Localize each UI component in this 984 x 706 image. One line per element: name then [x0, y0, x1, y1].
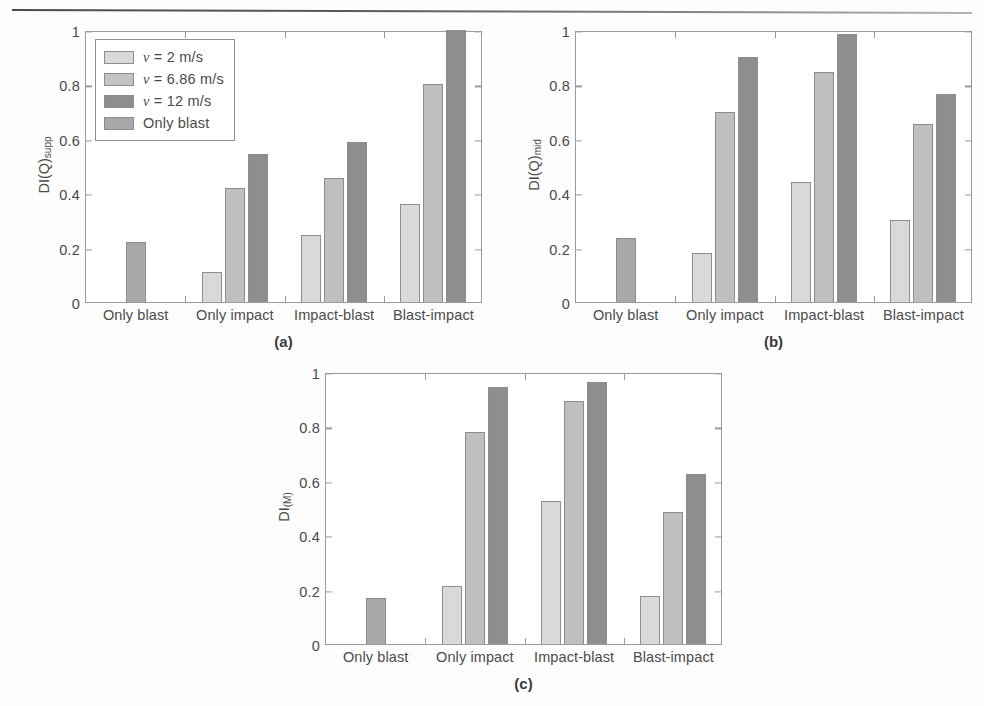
y-axis-tick-label: 0.6 [549, 133, 570, 149]
y-axis-tick-mark [86, 249, 92, 250]
y-axis-tick-label: 0.6 [299, 475, 320, 491]
x-axis-tick-label: Impact-blast [784, 307, 864, 323]
legend-item-variable: v [143, 93, 150, 109]
y-axis-tick-mark [326, 537, 332, 538]
plot-area: 00.20.40.60.81Only blastOnly impactImpac… [575, 31, 972, 303]
x-axis-tick-mark [675, 32, 676, 38]
legend-item-value: = 12 m/s [150, 93, 212, 109]
legend-swatch-v2 [104, 51, 134, 64]
x-axis-tick-label: Blast-impact [633, 649, 714, 665]
y-axis-tick-label: 1 [72, 24, 80, 40]
y-axis-tick-mark [475, 86, 481, 87]
bar [663, 512, 683, 644]
x-axis-tick-mark [675, 296, 676, 302]
y-axis-tick-mark [86, 86, 92, 87]
x-axis-tick-label: Only impact [686, 307, 764, 323]
bar [837, 34, 857, 302]
y-axis-title-main: DI [36, 179, 52, 194]
legend-item[interactable]: v = 6.86 m/s [104, 68, 224, 90]
bar [488, 387, 508, 644]
y-axis-title-variable: (Q) [36, 158, 52, 179]
legend-item-variable: v [143, 71, 150, 87]
legend-item-label: Only blast [143, 115, 209, 131]
x-axis-tick-mark [874, 296, 875, 302]
x-axis-tick-label: Only impact [436, 649, 514, 665]
legend-item-label: v = 2 m/s [143, 49, 203, 66]
y-axis-tick-mark [326, 591, 332, 592]
legend-swatch-v12 [104, 95, 134, 108]
x-axis-tick-mark [285, 296, 286, 302]
bar [301, 235, 321, 302]
y-axis-tick-mark [86, 195, 92, 196]
figure-page: DI(Q)supp00.20.40.60.81Only blastOnly im… [0, 0, 984, 706]
y-axis-tick-mark [326, 373, 332, 374]
x-axis-tick-mark [525, 374, 526, 380]
y-axis-tick-label: 0.2 [59, 242, 80, 258]
bar [564, 401, 584, 644]
x-axis-tick-mark [384, 296, 385, 302]
y-axis-tick-mark [475, 249, 481, 250]
x-axis-tick-mark [775, 296, 776, 302]
bar [446, 30, 466, 302]
legend: v = 2 m/sv = 6.86 m/sv = 12 m/sOnly blas… [95, 39, 235, 141]
legend-item[interactable]: v = 12 m/s [104, 90, 224, 112]
panel-caption: (b) [764, 333, 783, 350]
legend-item[interactable]: v = 2 m/s [104, 46, 224, 68]
panel-caption: (c) [514, 675, 532, 692]
y-axis-tick-mark [715, 591, 721, 592]
bar [814, 72, 834, 302]
x-axis-tick-mark [425, 374, 426, 380]
bar [541, 501, 561, 644]
y-axis-tick-mark [715, 428, 721, 429]
bar [640, 596, 660, 644]
y-axis-title-main: DI [526, 176, 542, 191]
y-axis-tick-mark [576, 31, 582, 32]
y-axis-title-main: DI [276, 507, 292, 522]
y-axis-tick-label: 0.8 [299, 420, 320, 436]
y-axis-tick-mark [475, 195, 481, 196]
x-axis-tick-mark [525, 638, 526, 644]
y-axis-title: DI(Q)mid [526, 29, 542, 301]
y-axis-tick-mark [86, 140, 92, 141]
y-axis-tick-label: 0.4 [59, 187, 80, 203]
legend-item-value: = 2 m/s [150, 49, 204, 65]
y-axis-tick-label: 0.4 [299, 529, 320, 545]
bar [587, 382, 607, 644]
y-axis-tick-label: 0 [72, 296, 80, 312]
y-axis-tick-label: 0.8 [549, 78, 570, 94]
x-axis-tick-mark [285, 32, 286, 38]
y-axis-tick-mark [965, 31, 971, 32]
bar [936, 94, 956, 302]
chart-panel-b: DI(Q)mid00.20.40.60.81Only blastOnly imp… [508, 24, 978, 354]
legend-item-value: Only blast [143, 115, 209, 131]
y-axis-tick-mark [715, 482, 721, 483]
y-axis-tick-label: 0.2 [549, 242, 570, 258]
x-axis-tick-label: Impact-blast [294, 307, 374, 323]
bar [366, 598, 386, 644]
bar [465, 432, 485, 644]
y-axis-tick-label: 0.4 [549, 187, 570, 203]
x-axis-tick-label: Only blast [343, 649, 408, 665]
y-axis-tick-label: 1 [312, 366, 320, 382]
x-axis-tick-mark [874, 32, 875, 38]
x-axis-tick-mark [185, 296, 186, 302]
x-axis-tick-label: Only blast [103, 307, 168, 323]
bar [890, 220, 910, 302]
y-axis-tick-mark [576, 195, 582, 196]
x-axis-tick-mark [775, 32, 776, 38]
y-axis-tick-label: 0.2 [299, 584, 320, 600]
bar [913, 124, 933, 302]
y-axis-title-subscript: supp [42, 136, 53, 158]
x-axis-tick-label: Only impact [196, 307, 274, 323]
plot-area: 00.20.40.60.81Only blastOnly impactImpac… [325, 373, 722, 645]
y-axis-title: DI(Q)supp [36, 29, 52, 301]
y-axis-title-subscript: (M) [282, 492, 293, 507]
x-axis-tick-mark [425, 638, 426, 644]
bar [791, 182, 811, 302]
y-axis-title-subscript: mid [532, 139, 543, 155]
y-axis-tick-label: 1 [562, 24, 570, 40]
legend-item[interactable]: Only blast [104, 112, 224, 134]
page-divider-rule [12, 9, 972, 14]
y-axis-tick-mark [576, 140, 582, 141]
y-axis-tick-mark [965, 249, 971, 250]
